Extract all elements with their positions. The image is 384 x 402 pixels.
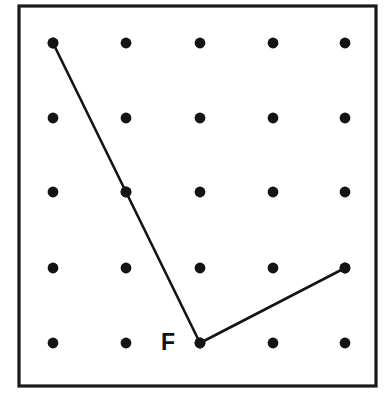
vertex-dot-B [121,187,132,198]
peg-dot-r5-c4 [268,338,279,349]
peg-dot-r2-c2 [121,113,132,124]
vertex-dot-C [340,263,351,274]
peg-dot-r1-c5 [340,38,351,49]
peg-dot-r4-c2 [121,263,132,274]
geoboard-canvas: F [0,0,384,402]
peg-grid [48,38,351,349]
peg-dot-r4-c4 [268,263,279,274]
vertex-label-f: F [161,329,175,355]
peg-dot-r1-c4 [268,38,279,49]
peg-dot-r2-c4 [268,113,279,124]
path-segment-FC [200,268,345,343]
peg-dot-r4-c1 [48,263,59,274]
peg-dot-r3-c1 [48,187,59,198]
peg-dot-r5-c2 [121,338,132,349]
peg-dot-r3-c4 [268,187,279,198]
peg-dot-r2-c5 [340,113,351,124]
peg-dot-r3-c3 [195,187,206,198]
peg-dot-r4-c3 [195,263,206,274]
peg-dot-r2-c1 [48,113,59,124]
peg-dot-r1-c3 [195,38,206,49]
peg-dot-r3-c5 [340,187,351,198]
peg-dot-r5-c5 [340,338,351,349]
vertex-dot-A [48,38,59,49]
peg-dot-r5-c1 [48,338,59,349]
geoboard-figure: F [0,0,384,402]
peg-dot-r2-c3 [195,113,206,124]
point-labels: F [161,329,175,355]
peg-dot-r1-c2 [121,38,132,49]
vertex-dot-F [195,338,206,349]
